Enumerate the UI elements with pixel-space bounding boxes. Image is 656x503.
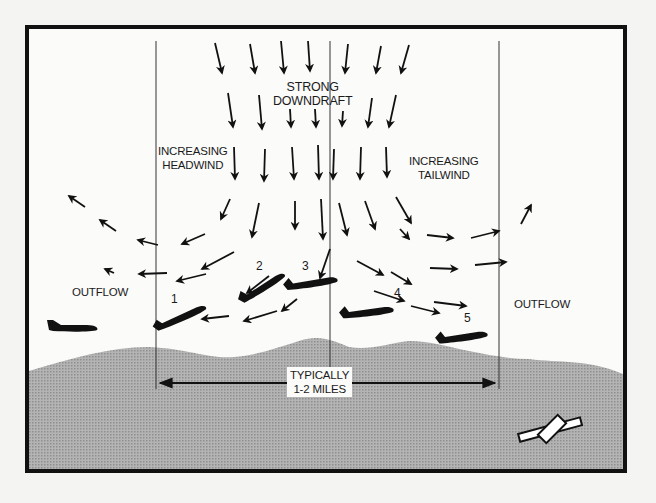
position-label-2: 2: [256, 259, 263, 273]
airplane-4: [339, 304, 394, 319]
position-label-3: 3: [302, 259, 309, 273]
airplane-0: [47, 320, 98, 332]
position-label-1: 1: [171, 292, 178, 306]
terrain: [29, 338, 623, 469]
position-label-4: 4: [394, 286, 401, 300]
label-increasing-tailwind: INCREASING TAILWIND: [409, 154, 479, 182]
position-label-5: 5: [464, 311, 471, 325]
microburst-diagram: STRONG DOWNDRAFT INCREASING HEADWIND INC…: [25, 25, 627, 473]
airplane-1: [151, 302, 208, 332]
label-strong-downdraft: STRONG DOWNDRAFT: [273, 80, 352, 108]
label-distance: TYPICALLY 1-2 MILES: [287, 367, 352, 397]
label-increasing-headwind: INCREASING HEADWIND: [158, 144, 228, 172]
label-outflow-right: OUTFLOW: [514, 297, 570, 311]
airplane-2: [235, 269, 287, 304]
label-outflow-left: OUTFLOW: [72, 285, 128, 299]
airplane-5: [435, 328, 488, 344]
